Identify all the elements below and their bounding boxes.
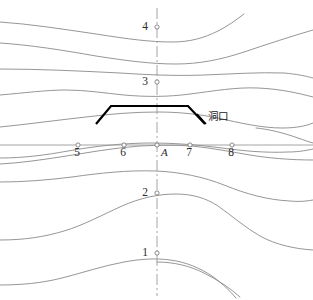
- contour-line: [256, 128, 313, 143]
- station-label-A: A: [160, 146, 168, 158]
- tick-labels-group: 43A215678: [74, 20, 234, 258]
- tunnel-portal-group: [96, 106, 206, 124]
- station-label-3: 3: [142, 75, 148, 87]
- station-label-6: 6: [120, 146, 126, 158]
- contour-line: [0, 14, 244, 42]
- contour-line: [0, 171, 313, 202]
- station-label-8: 8: [228, 146, 234, 158]
- contour-map-figure: 43A215678 洞口: [0, 0, 313, 300]
- station-label-7: 7: [186, 146, 192, 158]
- tunnel-entrance-label: 洞口: [208, 110, 228, 122]
- contour-line: [157, 262, 240, 297]
- station-markers-group: [76, 25, 234, 255]
- station-marker-4: [155, 25, 159, 29]
- station-label-5: 5: [74, 146, 80, 158]
- station-marker-2: [155, 191, 159, 195]
- contour-line: [0, 88, 313, 97]
- station-label-2: 2: [142, 186, 148, 198]
- contour-line: [0, 69, 313, 78]
- contour-line: [0, 112, 313, 128]
- contour-line: [0, 259, 236, 298]
- station-marker-1: [155, 251, 159, 255]
- station-marker-A: [155, 143, 159, 147]
- station-marker-3: [155, 80, 159, 84]
- contour-line: [0, 194, 313, 250]
- contour-line: [0, 30, 313, 64]
- tunnel-portal-outline: [96, 106, 205, 124]
- station-label-4: 4: [142, 20, 148, 32]
- contour-map-svg: 43A215678 洞口: [0, 0, 313, 300]
- station-label-1: 1: [142, 246, 148, 258]
